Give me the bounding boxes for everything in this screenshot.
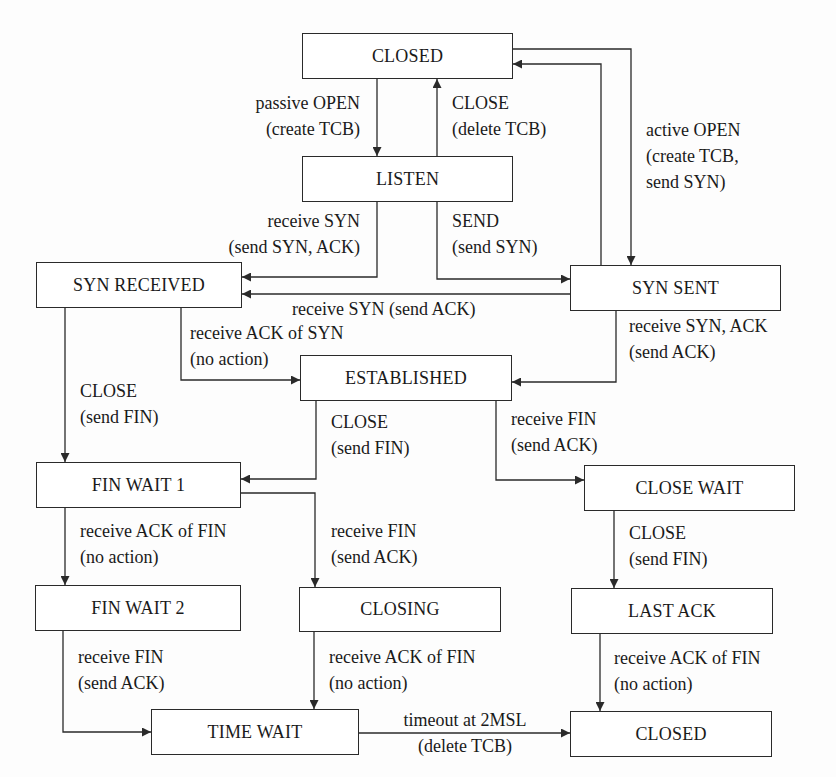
state-closed-top: CLOSED xyxy=(302,33,513,79)
label-listen-close: CLOSE(delete TCB) xyxy=(452,90,546,142)
arrow-est-close xyxy=(241,401,316,479)
label-active-open: active OPEN(create TCB,send SYN) xyxy=(646,117,740,195)
state-listen: LISTEN xyxy=(302,156,513,202)
label-last-ack-rcv-ack: receive ACK of FIN(no action) xyxy=(614,645,760,697)
label-listen-send: SEND(send SYN) xyxy=(452,208,538,260)
label-rcv-ack-of-syn: receive ACK of SYN(no action) xyxy=(190,320,343,372)
label-closing-rcv-ack: receive ACK of FIN(no action) xyxy=(329,644,475,696)
arrow-fw1-rcv-fin xyxy=(241,493,315,587)
state-closed-bottom: CLOSED xyxy=(570,711,772,757)
label-fw1-rcv-fin: receive FIN(send ACK) xyxy=(331,518,418,570)
state-fin-wait-1: FIN WAIT 1 xyxy=(36,462,241,508)
label-simultaneous-open: receive SYN (send ACK) xyxy=(292,296,475,322)
state-syn-received: SYN RECEIVED xyxy=(36,262,242,308)
state-close-wait: CLOSE WAIT xyxy=(584,465,795,511)
tcp-state-diagram: CLOSED LISTEN SYN RECEIVED SYN SENT ESTA… xyxy=(0,0,836,777)
state-last-ack: LAST ACK xyxy=(571,588,773,634)
label-listen-rcv-syn: receive SYN(send SYN, ACK) xyxy=(228,208,360,260)
label-passive-open: passive OPEN(create TCB) xyxy=(256,90,361,142)
state-closing: CLOSING xyxy=(299,587,501,632)
label-fw1-rcv-ack: receive ACK of FIN(no action) xyxy=(80,518,226,570)
label-timeout: timeout at 2MSL(delete TCB) xyxy=(385,707,545,759)
label-rcv-syn-ack: receive SYN, ACK(send ACK) xyxy=(629,313,767,365)
label-est-rcv-fin: receive FIN(send ACK) xyxy=(511,406,598,458)
state-fin-wait-2: FIN WAIT 2 xyxy=(35,585,241,631)
label-est-close: CLOSE(send FIN) xyxy=(331,409,410,461)
label-fw2-rcv-fin: receive FIN(send ACK) xyxy=(78,644,165,696)
state-time-wait: TIME WAIT xyxy=(151,709,359,755)
label-syn-rcvd-close: CLOSE(send FIN) xyxy=(80,378,159,430)
label-cw-close: CLOSE(send FIN) xyxy=(629,520,708,572)
state-syn-sent: SYN SENT xyxy=(570,265,781,311)
arrow-rcv-syn-ack xyxy=(512,311,616,382)
